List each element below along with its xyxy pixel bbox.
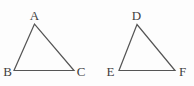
vertex-label-c: C: [77, 65, 86, 78]
vertex-label-d: D: [132, 8, 141, 21]
triangle-def-shape: [119, 25, 175, 71]
vertex-label-b: B: [3, 64, 12, 77]
vertex-label-f: F: [179, 64, 186, 77]
triangle-abc-shape: [14, 24, 74, 71]
vertex-label-a: A: [30, 8, 39, 21]
vertex-label-e: E: [107, 64, 115, 77]
geometry-figure: A B C D E F: [0, 0, 194, 86]
